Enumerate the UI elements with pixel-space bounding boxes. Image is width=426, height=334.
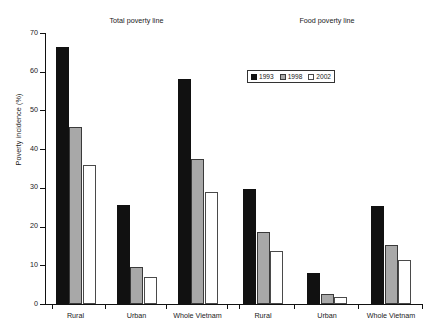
y-axis-tick-label: 70 bbox=[30, 29, 38, 37]
bar-1998-rural bbox=[69, 127, 82, 304]
y-axis-tick-label: 50 bbox=[30, 106, 38, 114]
category-label-whole-vietnam: Whole Vietnam bbox=[367, 311, 416, 320]
bar-2002-rural bbox=[270, 251, 283, 304]
bar-1998-rural bbox=[257, 232, 270, 304]
y-axis-tick: 50 bbox=[40, 110, 45, 111]
category-label-whole-vietnam: Whole Vietnam bbox=[173, 311, 222, 320]
bar-1993-rural bbox=[243, 189, 256, 304]
y-axis-tick: 70 bbox=[40, 33, 45, 34]
y-axis-tick-label: 30 bbox=[30, 183, 38, 191]
bar-1998-whole-vietnam bbox=[191, 159, 204, 304]
y-axis-tick-label: 0 bbox=[34, 300, 38, 308]
legend: 199319982002 bbox=[247, 70, 335, 83]
bar-2002-rural bbox=[83, 165, 96, 304]
bar-1993-urban bbox=[307, 273, 320, 304]
legend-entry-1993: 1993 bbox=[251, 73, 274, 80]
y-axis-line bbox=[45, 33, 46, 305]
y-axis-tick: 60 bbox=[40, 72, 45, 73]
bar-1993-whole-vietnam bbox=[371, 206, 384, 304]
bar-1998-whole-vietnam bbox=[385, 245, 398, 304]
x-axis-line bbox=[45, 304, 423, 305]
legend-label-2002: 2002 bbox=[316, 73, 331, 80]
bar-1993-rural bbox=[56, 47, 69, 304]
category-label-urban: Urban bbox=[127, 311, 147, 320]
legend-entry-1998: 1998 bbox=[280, 73, 303, 80]
bar-2002-urban bbox=[334, 297, 347, 304]
category-label-rural: Rural bbox=[67, 311, 84, 320]
x-axis-tick bbox=[422, 304, 423, 309]
x-axis-tick bbox=[166, 304, 167, 309]
bar-1998-urban bbox=[321, 294, 334, 304]
y-axis-tick-label: 60 bbox=[30, 67, 38, 75]
legend-entry-2002: 2002 bbox=[308, 73, 331, 80]
y-axis-tick: 10 bbox=[40, 265, 45, 266]
bar-2002-urban bbox=[144, 277, 157, 304]
bar-1998-urban bbox=[130, 267, 143, 304]
x-axis-tick bbox=[358, 304, 359, 309]
bar-2002-whole-vietnam bbox=[205, 192, 218, 304]
x-axis-tick bbox=[239, 304, 240, 309]
category-label-urban: Urban bbox=[317, 311, 337, 320]
panel-title-total-poverty-line: Total poverty line bbox=[45, 16, 228, 25]
category-label-rural: Rural bbox=[254, 311, 271, 320]
y-axis-tick-label: 10 bbox=[30, 261, 38, 269]
legend-label-1993: 1993 bbox=[259, 73, 274, 80]
legend-swatch-1993-icon bbox=[251, 74, 257, 80]
y-axis-tick: 30 bbox=[40, 188, 45, 189]
x-axis-tick bbox=[227, 304, 228, 309]
bar-1993-whole-vietnam bbox=[178, 79, 191, 304]
legend-label-1998: 1998 bbox=[288, 73, 303, 80]
poverty-incidence-bar-chart: Poverty incidence (%) 010203040506070 To… bbox=[0, 0, 426, 334]
panel-title-food-poverty-line: Food poverty line bbox=[231, 16, 423, 25]
y-axis-tick: 40 bbox=[40, 149, 45, 150]
x-axis-tick bbox=[294, 304, 295, 309]
legend-swatch-2002-icon bbox=[308, 74, 314, 80]
y-axis-tick: 0 bbox=[40, 304, 45, 305]
y-axis-tick-label: 40 bbox=[30, 145, 38, 153]
x-axis-tick bbox=[52, 304, 53, 309]
y-axis-tick: 20 bbox=[40, 227, 45, 228]
legend-swatch-1998-icon bbox=[280, 74, 286, 80]
y-axis-tick-label: 20 bbox=[30, 222, 38, 230]
bar-2002-whole-vietnam bbox=[398, 260, 411, 304]
y-axis-label: Poverty incidence (%) bbox=[14, 60, 23, 200]
bar-1993-urban bbox=[117, 205, 130, 304]
x-axis-tick bbox=[105, 304, 106, 309]
